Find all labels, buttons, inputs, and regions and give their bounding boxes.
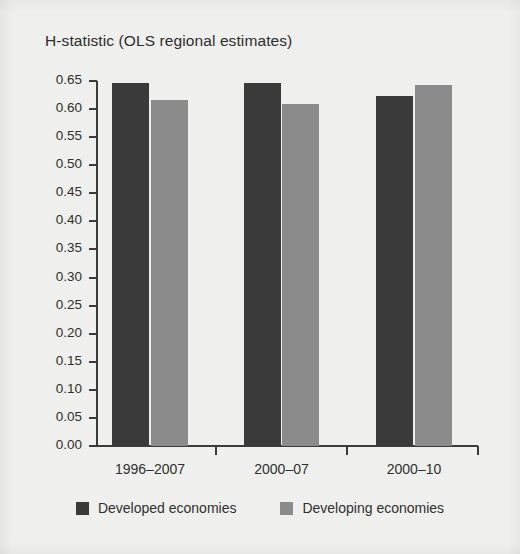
y-axis-tick	[89, 136, 97, 138]
y-axis-tick	[89, 220, 97, 222]
legend-swatch-icon	[280, 502, 293, 515]
y-axis-tick	[89, 333, 97, 335]
y-axis-tick-label: 0.10	[36, 381, 82, 396]
y-axis-tick-label: 0.45	[36, 184, 82, 199]
legend-label: Developed economies	[98, 500, 237, 516]
y-axis-tick-label: 0.40	[36, 212, 82, 227]
chart-figure: H-statistic (OLS regional estimates) 0.6…	[0, 0, 520, 554]
y-axis-tick	[89, 248, 97, 250]
bar	[151, 100, 188, 446]
chart-legend: Developed economiesDeveloping economies	[0, 500, 520, 516]
bar	[244, 83, 281, 446]
chart-title: H-statistic (OLS regional estimates)	[45, 32, 292, 50]
y-axis-tick	[89, 80, 97, 82]
x-axis-tick	[215, 446, 217, 455]
y-axis-tick	[89, 164, 97, 166]
x-axis-category-label: 2000–10	[387, 461, 442, 477]
y-axis-tick-label: 0.25	[36, 297, 82, 312]
y-axis-tick-label: 0.65	[36, 72, 82, 87]
y-axis-tick-label: 0.55	[36, 128, 82, 143]
x-axis-category-label: 2000–07	[254, 461, 309, 477]
bar	[376, 96, 413, 446]
y-axis-tick-label: 0.20	[36, 325, 82, 340]
y-axis-tick	[89, 361, 97, 363]
y-axis-tick-label: 0.00	[36, 437, 82, 452]
y-axis-tick-label: 0.35	[36, 240, 82, 255]
x-axis-tick	[477, 446, 479, 455]
x-axis-tick	[346, 446, 348, 455]
y-axis-tick	[89, 192, 97, 194]
y-axis-tick	[89, 305, 97, 307]
legend-swatch-icon	[76, 502, 89, 515]
y-axis-tick	[89, 277, 97, 279]
y-axis-tick-label: 0.50	[36, 156, 82, 171]
legend-item: Developed economies	[76, 500, 237, 516]
y-axis-tick-label: 0.05	[36, 409, 82, 424]
legend-item: Developing economies	[280, 500, 444, 516]
y-axis-tick	[89, 389, 97, 391]
y-axis-tick	[89, 108, 97, 110]
x-axis-category-label: 1996–2007	[115, 461, 185, 477]
bar	[415, 85, 452, 446]
y-axis-tick	[89, 445, 97, 447]
y-axis-tick	[89, 417, 97, 419]
bar	[282, 104, 319, 446]
y-axis-tick-label: 0.30	[36, 269, 82, 284]
legend-label: Developing economies	[302, 500, 444, 516]
bar	[112, 83, 149, 446]
y-axis-tick-label: 0.60	[36, 100, 82, 115]
y-axis-tick-label: 0.15	[36, 353, 82, 368]
